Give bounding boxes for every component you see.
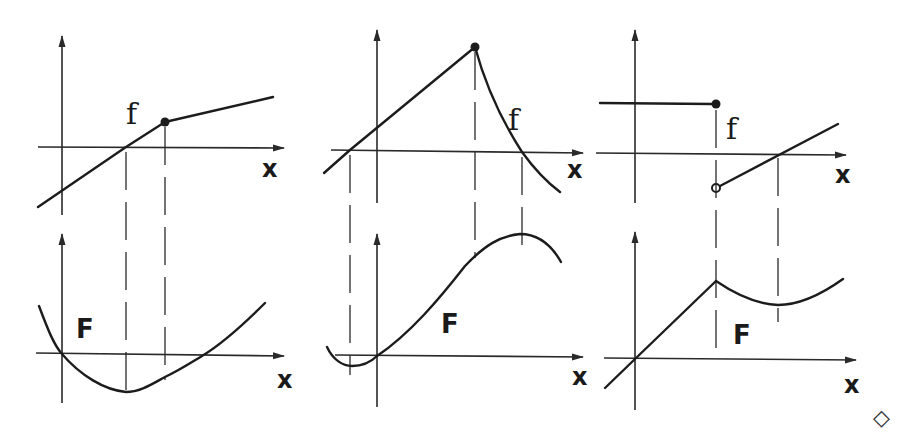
- x-label: x: [572, 363, 588, 391]
- F-curve: [39, 303, 265, 392]
- x-axis: [604, 358, 856, 360]
- panel-1: f x F x: [36, 36, 293, 403]
- x-label: x: [567, 156, 583, 184]
- end-of-proof-diamond-icon: ◇: [873, 405, 890, 430]
- filled-point: [712, 100, 721, 109]
- panel-3: f x F x: [596, 30, 860, 410]
- filled-point: [471, 43, 480, 52]
- F-curve: [327, 234, 561, 366]
- panel-2-F-graph: F x: [327, 234, 588, 407]
- panel-2-f-graph: f x: [324, 30, 583, 203]
- f-curve-rising: [324, 47, 475, 173]
- panel-1-f-graph: f x: [38, 36, 284, 215]
- filled-point: [161, 118, 170, 127]
- x-label: x: [844, 371, 860, 399]
- f-label: f: [726, 111, 739, 146]
- panel-3-f-graph: f x: [596, 30, 851, 203]
- panel-3-F-graph: F x: [604, 232, 860, 410]
- figure-canvas: f x F x f x: [0, 0, 914, 446]
- x-label: x: [277, 366, 293, 394]
- F-label: F: [76, 314, 94, 344]
- F-label: F: [733, 320, 751, 350]
- f-label: f: [126, 96, 139, 131]
- x-axis: [36, 353, 284, 356]
- x-label: x: [835, 161, 851, 189]
- f-label: f: [508, 102, 521, 137]
- x-label: x: [262, 155, 278, 183]
- f-curve: [38, 97, 273, 207]
- x-axis: [38, 147, 284, 148]
- f-constant-piece: [600, 103, 712, 104]
- F-curve-dip: [716, 279, 843, 305]
- F-curve-linear: [605, 281, 716, 388]
- F-label: F: [441, 309, 459, 339]
- panel-2: f x F x: [324, 30, 588, 407]
- x-axis: [335, 355, 583, 357]
- x-axis: [596, 153, 846, 155]
- x-axis: [331, 150, 583, 153]
